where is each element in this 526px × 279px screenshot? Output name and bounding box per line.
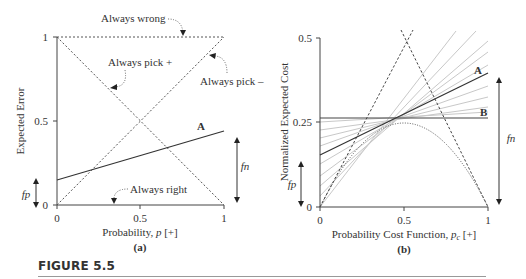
arrow-always-wrong bbox=[180, 30, 186, 36]
xtick-b-1: 1 bbox=[485, 214, 491, 226]
caption-a: (a) bbox=[134, 241, 147, 254]
ytick-a-1: 1 bbox=[43, 31, 49, 43]
figure-canvas: 1 0.5 0 0 0.5 1 A Always wrong Always pi… bbox=[0, 0, 526, 279]
label-a-a: A bbox=[197, 120, 205, 132]
annotation-always-right: Always right bbox=[130, 183, 187, 195]
panel-b: 0.5 0.25 0 0 0.5 1 B A fp fn Normalized … bbox=[278, 30, 516, 256]
ytick-b-0: 0 bbox=[307, 201, 313, 213]
annotation-always-pick-plus: Always pick + bbox=[108, 56, 172, 68]
xlabel-a: Probability, p [+] bbox=[102, 226, 177, 238]
xtick-b-05: 0.5 bbox=[397, 214, 411, 226]
fn-label-b: fn bbox=[507, 132, 516, 144]
label-a-b: A bbox=[474, 64, 482, 76]
arrow-always-right bbox=[111, 198, 117, 204]
ylabel-a: Expected Error bbox=[14, 87, 26, 154]
arrow-always-pick-plus bbox=[110, 84, 117, 90]
ytick-b-05: 0.5 bbox=[298, 32, 312, 44]
xtick-a-05: 0.5 bbox=[133, 212, 147, 224]
arrow-always-pick-minus bbox=[209, 53, 216, 59]
xtick-a-1: 1 bbox=[221, 212, 227, 224]
envelope-curve bbox=[320, 123, 488, 207]
tangent-fan bbox=[320, 31, 488, 207]
annotation-always-pick-minus: Always pick – bbox=[200, 75, 264, 87]
caption-b: (b) bbox=[397, 243, 411, 256]
label-b: B bbox=[480, 106, 488, 118]
fn-label-a: fn bbox=[241, 160, 250, 172]
ytick-b-025: 0.25 bbox=[293, 116, 313, 128]
fp-label-a: fp bbox=[22, 188, 31, 200]
figure-label: FIGURE 5.5 bbox=[38, 259, 115, 273]
line-a-a bbox=[57, 131, 224, 180]
xtick-b-0: 0 bbox=[317, 214, 323, 226]
xtick-a-0: 0 bbox=[54, 212, 60, 224]
panel-a: 1 0.5 0 0 0.5 1 A Always wrong Always pi… bbox=[14, 12, 264, 254]
ytick-a-0: 0 bbox=[43, 199, 49, 211]
ytick-a-05: 0.5 bbox=[34, 115, 48, 127]
ylabel-b: Normalized Expected Cost bbox=[278, 63, 290, 182]
figure-rule bbox=[38, 276, 486, 277]
xlabel-b: Probability Cost Function, pc [+] bbox=[332, 228, 477, 242]
annotation-always-wrong: Always wrong bbox=[101, 12, 166, 24]
